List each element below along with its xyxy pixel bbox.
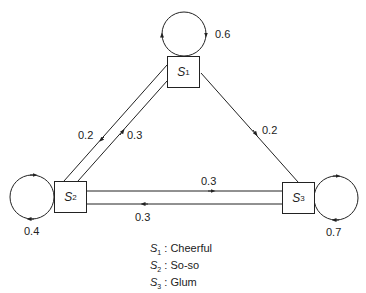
state-s3-sub: 3 (300, 194, 304, 203)
legend-row-s1: S1 : Cheerful (150, 242, 212, 259)
state-s1: S1 (167, 56, 200, 88)
state-s3-symbol: S (292, 191, 300, 205)
edge-s1-s2 (64, 65, 167, 181)
legend-row-s3: S3 : Glum (150, 276, 212, 293)
legend-row-s2: S2 : So-so (150, 259, 212, 276)
self-loop-s3 (314, 176, 358, 220)
legend-s2-text: So-so (170, 259, 199, 271)
legend: S1 : Cheerful S2 : So-so S3 : Glum (150, 242, 212, 293)
prob-s2-s2: 0.4 (24, 225, 39, 237)
legend-s1-text: Cheerful (170, 242, 212, 254)
prob-s2-s3: 0.3 (201, 175, 216, 187)
state-s3: S3 (282, 182, 315, 214)
prob-s2-s1: 0.3 (127, 129, 142, 141)
prob-s1-s3: 0.2 (262, 124, 277, 136)
state-s2: S2 (54, 181, 87, 213)
prob-s3-s3: 0.7 (326, 226, 341, 238)
state-s2-symbol: S (64, 190, 72, 204)
self-loop-s1 (162, 12, 206, 56)
state-s1-symbol: S (177, 65, 185, 79)
self-loop-s2 (10, 175, 54, 219)
edge-s1-s3 (201, 73, 298, 182)
legend-s3-text: Glum (170, 276, 196, 288)
state-s1-sub: 1 (185, 68, 189, 77)
prob-s1-s2: 0.2 (78, 129, 93, 141)
prob-s1-s1: 0.6 (215, 28, 230, 40)
prob-s3-s2: 0.3 (135, 211, 150, 223)
state-s2-sub: 2 (72, 193, 76, 202)
